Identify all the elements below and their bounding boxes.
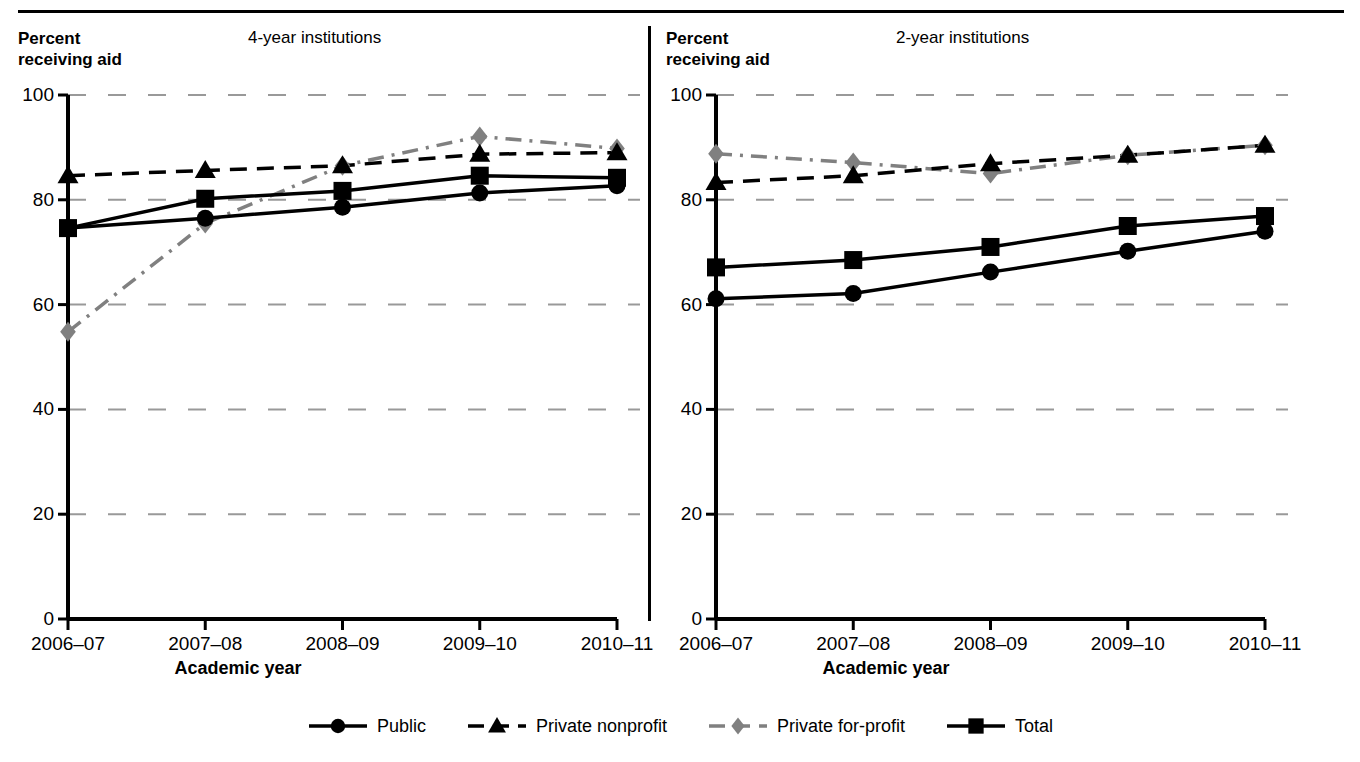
data-point-diamond bbox=[731, 718, 744, 735]
x-axis-tick-label: 2010–11 bbox=[1205, 633, 1325, 655]
data-point-circle bbox=[708, 290, 725, 307]
figure-container: Percent receiving aid 4-year institution… bbox=[0, 0, 1360, 762]
y-axis-tick-label: 0 bbox=[10, 608, 54, 630]
data-point-circle bbox=[60, 220, 77, 237]
x-axis-tick-label: 2006–07 bbox=[8, 633, 128, 655]
x-axis-title-left: Academic year bbox=[88, 658, 388, 679]
y-axis-tick-label: 40 bbox=[10, 398, 54, 420]
data-point-diamond bbox=[472, 126, 488, 146]
plot-svg bbox=[0, 0, 660, 650]
data-point-circle bbox=[609, 177, 626, 194]
legend-item: Private nonprofit bbox=[466, 714, 667, 738]
y-axis-tick-label: 60 bbox=[10, 294, 54, 316]
data-point-square bbox=[334, 182, 352, 200]
chart-legend: PublicPrivate nonprofitPrivate for-profi… bbox=[0, 714, 1360, 738]
data-point-square bbox=[968, 718, 983, 733]
y-axis-tick-label: 0 bbox=[658, 608, 702, 630]
data-point-diamond bbox=[708, 144, 724, 164]
legend-label: Private nonprofit bbox=[536, 716, 667, 737]
data-point-circle bbox=[331, 719, 345, 733]
panel-four-year: Percent receiving aid 4-year institution… bbox=[0, 0, 660, 720]
data-point-square bbox=[196, 190, 214, 208]
legend-swatch-diamond-icon bbox=[707, 714, 769, 738]
legend-item: Public bbox=[307, 714, 426, 738]
x-axis-tick-label: 2006–07 bbox=[656, 633, 776, 655]
data-point-square bbox=[844, 251, 862, 269]
x-axis-tick-label: 2009–10 bbox=[1068, 633, 1188, 655]
legend-label: Public bbox=[377, 716, 426, 737]
legend-label: Private for-profit bbox=[777, 716, 905, 737]
data-point-square bbox=[982, 238, 1000, 256]
x-axis-tick-label: 2007–08 bbox=[793, 633, 913, 655]
data-point-triangle bbox=[1255, 135, 1276, 153]
y-axis-tick-label: 100 bbox=[658, 84, 702, 106]
y-axis-tick-label: 80 bbox=[658, 189, 702, 211]
legend-label: Total bbox=[1015, 716, 1053, 737]
legend-swatch-circle-icon bbox=[307, 714, 369, 738]
data-point-circle bbox=[982, 264, 999, 281]
plot-area-four-year bbox=[0, 0, 660, 650]
legend-swatch-square-icon bbox=[945, 714, 1007, 738]
legend-item: Total bbox=[945, 714, 1053, 738]
y-axis-tick-label: 80 bbox=[10, 189, 54, 211]
data-point-square bbox=[1119, 217, 1137, 235]
legend-item: Private for-profit bbox=[707, 714, 905, 738]
data-point-circle bbox=[197, 210, 214, 227]
x-axis-title-right: Academic year bbox=[736, 658, 1036, 679]
data-point-square bbox=[471, 167, 489, 185]
data-point-circle bbox=[334, 199, 351, 216]
y-axis-tick-label: 60 bbox=[658, 294, 702, 316]
data-point-circle bbox=[845, 285, 862, 302]
y-axis-tick-label: 40 bbox=[658, 398, 702, 420]
data-point-square bbox=[707, 258, 725, 276]
y-axis-tick-label: 100 bbox=[10, 84, 54, 106]
plot-svg bbox=[648, 0, 1308, 650]
x-axis-tick-label: 2009–10 bbox=[420, 633, 540, 655]
panel-two-year: Percent receiving aid 2-year institution… bbox=[648, 0, 1308, 720]
x-axis-tick-label: 2008–09 bbox=[283, 633, 403, 655]
y-axis-tick-label: 20 bbox=[10, 503, 54, 525]
data-point-diamond bbox=[60, 322, 76, 342]
legend-swatch-triangle-icon bbox=[466, 714, 528, 738]
x-axis-tick-label: 2008–09 bbox=[931, 633, 1051, 655]
plot-area-two-year bbox=[648, 0, 1308, 650]
x-axis-tick-label: 2007–08 bbox=[145, 633, 265, 655]
data-point-circle bbox=[1257, 223, 1274, 240]
y-axis-tick-label: 20 bbox=[658, 503, 702, 525]
data-point-circle bbox=[471, 184, 488, 201]
data-point-square bbox=[1256, 207, 1274, 225]
data-point-circle bbox=[1119, 243, 1136, 260]
